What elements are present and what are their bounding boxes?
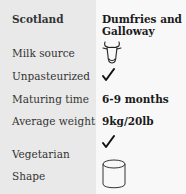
area-heading-line2: Galloway	[102, 25, 155, 37]
region-heading: Scotland	[12, 13, 64, 25]
label-milk-source: Milk source	[12, 47, 75, 59]
label-vegetarian: Vegetarian	[12, 148, 70, 160]
cow-icon	[101, 39, 123, 65]
value-maturing-time: 6-9 months	[102, 93, 169, 105]
area-heading-line1: Dumfries and	[102, 13, 182, 25]
checkmark-icon	[102, 134, 116, 149]
label-shape: Shape	[12, 170, 45, 182]
label-maturing-time: Maturing time	[12, 93, 89, 105]
label-average-weight: Average weight	[12, 115, 95, 127]
label-unpasteurized: Unpasteurized	[12, 70, 90, 82]
value-average-weight: 9kg/20lb	[102, 115, 154, 127]
checkmark-icon	[102, 67, 116, 82]
cylinder-icon	[101, 158, 127, 190]
